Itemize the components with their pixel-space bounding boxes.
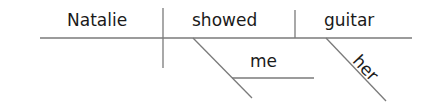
verb-word: showed — [192, 12, 257, 29]
indirect-object-word: me — [250, 53, 277, 70]
indirect-object-slant — [193, 38, 252, 98]
subject-word: Natalie — [67, 12, 127, 29]
direct-object-word: guitar — [324, 12, 374, 29]
